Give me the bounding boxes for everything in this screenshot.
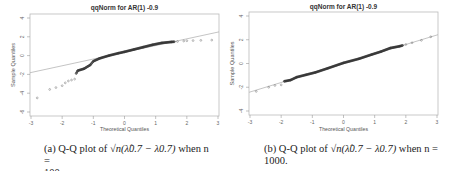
data-point <box>74 78 76 80</box>
caption-b-prefix: (b) Q-Q plot of <box>264 143 328 154</box>
data-point <box>274 85 276 87</box>
qq-plot-panel-b: qqNorm for AR(1) -0.9-3-2-10123-4-2024Th… <box>225 0 451 171</box>
caption-a-line2: 100. <box>44 167 62 171</box>
x-tick-label: -3 <box>248 119 253 125</box>
y-tick-label: 4 <box>19 16 25 19</box>
qq-plot-a: qqNorm for AR(1) -0.9-3-2-10123-6-4-2024… <box>0 0 225 140</box>
data-point <box>183 40 185 42</box>
data-point <box>55 87 57 89</box>
qq-plot-panel-a: qqNorm for AR(1) -0.9-3-2-10123-6-4-2024… <box>0 0 225 171</box>
x-tick-label: 3 <box>217 120 220 126</box>
data-point <box>211 39 213 41</box>
x-tick-label: 2 <box>185 120 188 126</box>
y-tick-label: 2 <box>238 38 244 41</box>
y-tick-label: -4 <box>238 109 244 114</box>
y-tick-label: -4 <box>19 91 25 96</box>
caption-a-prefix: (a) Q-Q plot of <box>44 143 107 154</box>
x-tick-label: -2 <box>279 119 284 125</box>
y-tick-label: 0 <box>238 62 244 65</box>
caption-b-math: √n(λ̂0.7 − λ0.7) <box>331 143 397 154</box>
x-tick-label: -1 <box>91 120 96 126</box>
plot-frame <box>30 14 219 116</box>
plot-title: qqNorm for AR(1) -0.9 <box>310 3 378 11</box>
y-axis-label: Sample Quantiles <box>10 43 16 87</box>
y-axis-label: Sample Quantiles <box>229 41 235 85</box>
data-point <box>255 91 257 93</box>
y-tick-label: 0 <box>19 54 25 57</box>
data-point <box>186 40 188 42</box>
qq-plot-b: qqNorm for AR(1) -0.9-3-2-10123-4-2024Th… <box>225 0 451 140</box>
y-tick-label: -2 <box>19 72 25 77</box>
x-tick-label: 1 <box>373 119 376 125</box>
caption-b-line2: 1000. <box>264 155 288 166</box>
caption-a-math: √n(λ̂0.7 − λ0.7) <box>110 143 176 154</box>
x-tick-label: -1 <box>310 119 315 125</box>
data-point <box>61 85 63 87</box>
y-tick-label: -2 <box>238 85 244 90</box>
data-point <box>36 97 38 99</box>
x-tick-label: 3 <box>436 119 439 125</box>
data-point <box>280 84 282 86</box>
data-point <box>200 39 202 41</box>
x-tick-label: 2 <box>404 119 407 125</box>
data-point <box>49 89 51 91</box>
data-point <box>192 40 194 42</box>
y-tick-label: -6 <box>19 110 25 115</box>
data-point <box>64 82 66 84</box>
y-tick-label: 4 <box>238 14 244 17</box>
x-axis-label: Theoretical Quantiles <box>319 126 368 132</box>
x-tick-label: -3 <box>29 120 34 126</box>
data-points <box>36 39 212 99</box>
data-point <box>71 79 73 81</box>
x-tick-label: 1 <box>154 120 157 126</box>
caption-b-suffix: when n = <box>399 143 438 154</box>
data-point <box>68 80 70 82</box>
caption-a: (a) Q-Q plot of √n(λ̂0.7 − λ0.7) when n … <box>44 143 214 171</box>
x-tick-label: 0 <box>342 119 345 125</box>
caption-b: (b) Q-Q plot of √n(λ̂0.7 − λ0.7) when n … <box>264 143 444 167</box>
plot-title: qqNorm for AR(1) -0.9 <box>91 4 159 12</box>
y-tick-label: 2 <box>19 35 25 38</box>
x-tick-label: -2 <box>60 120 65 126</box>
x-axis-label: Theoretical Quantiles <box>100 126 149 132</box>
